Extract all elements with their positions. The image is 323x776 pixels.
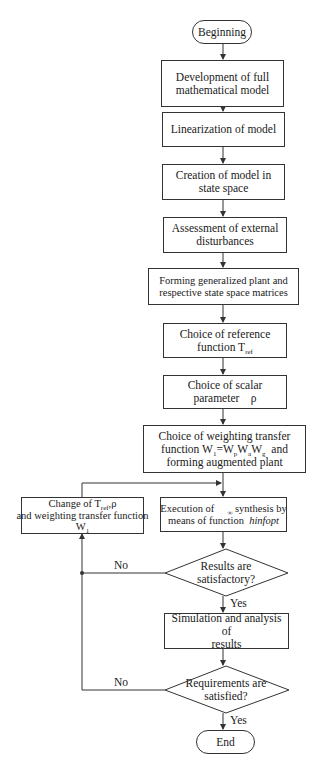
step-choice-weighting: Choice of weighting transfer function W1… (143, 425, 306, 473)
development-line1: Development of full (176, 71, 269, 84)
weighting-line3: forming augmented plant (166, 456, 282, 469)
creation-line1: Creation of model in (176, 169, 272, 182)
start-terminal: Beginning (192, 20, 252, 44)
weighting-line2: function W1=WpWaWg and (161, 443, 288, 456)
forming-line1: Forming generalized plant and (159, 275, 288, 287)
connector-change-to-execution (82, 483, 221, 497)
results-line1: Results are (201, 560, 252, 573)
reference-line2: function Tref (197, 341, 253, 354)
reference-line1: Choice of reference (180, 328, 271, 341)
step-linearization: Linearization of model (162, 112, 285, 147)
development-line2: mathematical model (176, 84, 270, 97)
simulation-line2: results (211, 638, 241, 651)
decision-results: Results are satisfactory? (175, 559, 277, 587)
step-change-parameters: Change of Tref,ρ and weighting transfer … (21, 497, 144, 534)
requirements-line1: Requirements are (186, 677, 267, 690)
execution-line2: means of function hinfopt (168, 515, 279, 527)
step-choice-scalar: Choice of scalar parameter ρ (163, 375, 287, 409)
creation-line2: state space (199, 182, 249, 195)
requirements-line2: satisfied? (204, 690, 247, 703)
scalar-line2: parameter ρ (193, 392, 256, 405)
label-requirements-yes: Yes (230, 714, 247, 727)
forming-line2: respective state space matrices (159, 287, 288, 299)
step-assessment: Assessment of external disturbances (163, 217, 287, 253)
change-line1: Change of Tref,ρ (49, 498, 117, 510)
start-label: Beginning (198, 26, 246, 39)
simulation-line1: Simulation and analysis of (168, 612, 285, 638)
decision-requirements: Requirements are satisfied? (175, 676, 277, 704)
step-simulation: Simulation and analysis of results (164, 613, 289, 649)
step-choice-reference: Choice of reference function Tref (163, 323, 287, 358)
assessment-line1: Assessment of external (172, 222, 279, 235)
weighting-line1: Choice of weighting transfer (159, 430, 291, 443)
step-execution: Execution of ∞ synthesis by means of fun… (160, 497, 287, 532)
end-label: End (216, 736, 235, 749)
junction-dot (80, 571, 84, 575)
label-results-no: No (114, 559, 128, 572)
linearization-label: Linearization of model (171, 123, 276, 136)
results-line2: satisfactory? (197, 573, 255, 586)
step-creation: Creation of model in state space (162, 164, 285, 200)
label-results-yes: Yes (230, 597, 247, 610)
change-line2: and weighting transfer function (16, 510, 148, 522)
step-development: Development of full mathematical model (161, 60, 284, 107)
step-forming: Forming generalized plant and respective… (148, 268, 299, 305)
execution-line1: Execution of ∞ synthesis by (160, 503, 286, 515)
assessment-line2: disturbances (196, 235, 253, 248)
scalar-line1: Choice of scalar (188, 379, 263, 392)
change-line3: W1 (76, 521, 89, 533)
label-requirements-no: No (114, 676, 128, 689)
end-terminal: End (196, 730, 255, 754)
